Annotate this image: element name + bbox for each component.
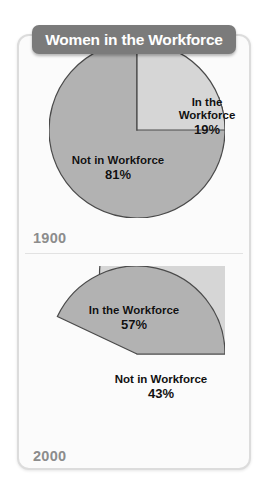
pie-label-1900-not-in-workforce: Not in Workforce 81% — [56, 154, 180, 182]
pie-label-name: In the Workforce — [170, 96, 244, 122]
pie-label-name: Not in Workforce — [56, 154, 180, 167]
pie-panel-1900: In the Workforce 19% Not in Workforce 81… — [19, 36, 249, 254]
year-label-2000: 2000 — [33, 448, 66, 464]
pie-panel-2000: In the Workforce 57% Not in Workforce 43… — [19, 254, 249, 472]
pie-label-value: 43% — [97, 387, 225, 402]
pie-label-2000-in-workforce: In the Workforce 57% — [66, 304, 202, 332]
chart-card: In the Workforce 19% Not in Workforce 81… — [17, 34, 251, 470]
year-label-1900: 1900 — [33, 230, 66, 246]
title-banner: Women in the Workforce — [32, 25, 236, 54]
pie-label-name: Not in Workforce — [97, 373, 225, 386]
pie-label-2000-not-in-workforce: Not in Workforce 43% — [97, 373, 225, 401]
page-title: Women in the Workforce — [45, 31, 223, 49]
pie-chart-2000 — [49, 266, 225, 442]
pie-svg-2000 — [49, 266, 225, 442]
pie-label-name: In the Workforce — [66, 304, 202, 317]
pie-label-value: 81% — [56, 168, 180, 183]
pie-label-value: 19% — [170, 123, 244, 138]
pie-label-1900-in-workforce: In the Workforce 19% — [170, 96, 244, 137]
pie-label-value: 57% — [66, 318, 202, 333]
